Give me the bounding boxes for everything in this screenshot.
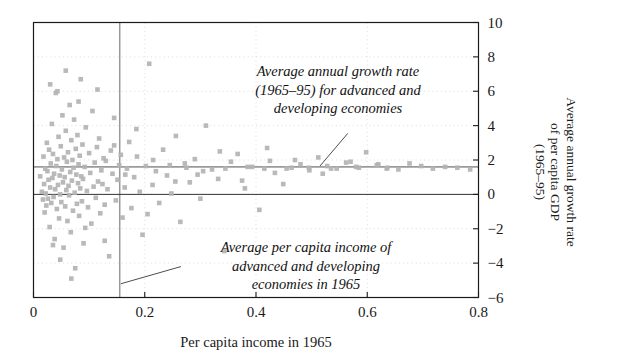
scatter-point	[91, 184, 96, 189]
scatter-point	[134, 127, 139, 132]
scatter-point	[320, 171, 325, 176]
scatter-point	[74, 172, 79, 177]
scatter-point	[125, 166, 130, 171]
scatter-point	[50, 176, 55, 181]
scatter-point	[48, 161, 53, 166]
scatter-point	[123, 172, 128, 177]
scatter-point	[61, 245, 66, 250]
y-axis-tick-label: −4	[488, 255, 504, 272]
scatter-point	[78, 77, 83, 82]
scatter-point	[86, 205, 91, 210]
scatter-point	[334, 166, 339, 171]
scatter-point	[92, 160, 97, 165]
scatter-point	[151, 158, 156, 163]
scatter-point	[193, 157, 198, 162]
scatter-point	[204, 123, 209, 128]
scatter-point	[129, 206, 134, 211]
scatter-point	[112, 143, 117, 148]
scatter-point	[396, 167, 401, 172]
scatter-point	[38, 174, 43, 179]
scatter-point	[97, 136, 102, 141]
scatter-point	[245, 165, 250, 170]
y-axis-tick-label: 2	[488, 152, 496, 169]
scatter-point	[114, 198, 119, 203]
scatter-point	[80, 199, 85, 204]
scatter-point	[82, 165, 87, 170]
scatter-point	[66, 183, 71, 188]
scatter-point	[57, 216, 62, 221]
scatter-point	[62, 155, 67, 160]
y-axis-title: Average annual growth rate of per capita…	[533, 97, 580, 246]
scatter-point	[68, 170, 73, 175]
scatter-point	[60, 167, 65, 172]
scatter-point	[76, 99, 81, 104]
scatter-point	[87, 151, 92, 156]
scatter-point	[81, 241, 86, 246]
scatter-point	[50, 122, 55, 127]
scatter-point	[344, 160, 349, 165]
scatter-point	[293, 158, 298, 163]
scatter-point	[53, 187, 58, 192]
scatter-point	[46, 196, 51, 201]
scatter-point	[47, 225, 52, 230]
scatter-point	[384, 166, 389, 171]
scatter-point	[357, 165, 362, 170]
scatter-point	[70, 158, 75, 163]
scatter-point	[157, 201, 162, 206]
scatter-point	[42, 210, 47, 215]
scatter-point	[135, 154, 140, 159]
scatter-point	[127, 140, 132, 145]
scatter-point	[58, 257, 63, 262]
x-axis-tick-label: 0.6	[358, 304, 377, 321]
scatter-point	[94, 196, 99, 201]
y-axis-tick-label: 0	[488, 186, 496, 203]
scatter-point	[83, 125, 88, 130]
scatter-point	[218, 149, 223, 154]
scatter-point	[431, 166, 436, 171]
scatter-point	[144, 164, 149, 169]
scatter-point	[71, 208, 76, 213]
scatter-point	[75, 133, 80, 138]
scatter-point	[56, 183, 61, 188]
y-axis-title-line-3: (1965–95)	[533, 144, 548, 200]
scatter-point	[52, 237, 57, 242]
y-axis-tick-label: 8	[488, 48, 496, 65]
scatter-point	[70, 178, 75, 183]
scatter-point	[150, 183, 155, 188]
scatter-point	[329, 166, 334, 171]
scatter-point	[63, 204, 68, 209]
scatter-point	[75, 202, 80, 207]
scatter-point	[174, 134, 179, 139]
scatter-point	[167, 163, 172, 168]
scatter-point	[51, 152, 56, 157]
scatter-point	[45, 169, 50, 174]
scatter-point	[229, 159, 234, 164]
scatter-point	[104, 159, 109, 164]
scatter-point	[95, 87, 100, 92]
scatter-point	[73, 266, 78, 271]
scatter-chart-figure: 00.20.40.60.8 1086420−2−4−6 Per capita i…	[0, 0, 620, 364]
scatter-point	[55, 89, 60, 94]
scatter-point	[243, 186, 248, 191]
scatter-point	[45, 141, 50, 146]
scatter-point	[63, 128, 68, 133]
scatter-point	[109, 148, 114, 153]
scatter-point	[54, 164, 59, 169]
scatter-point	[145, 212, 150, 217]
scatter-point	[47, 147, 52, 152]
scatter-point	[72, 190, 77, 195]
scatter-point	[58, 192, 63, 197]
scatter-point	[48, 82, 53, 87]
scatter-point	[284, 166, 289, 171]
scatter-point	[132, 175, 137, 180]
scatter-point	[112, 116, 117, 121]
scatter-point	[58, 144, 63, 149]
scatter-point	[67, 193, 72, 198]
scatter-point	[161, 147, 166, 152]
scatter-point	[235, 152, 240, 157]
scatter-point	[195, 172, 200, 177]
scatter-point	[468, 167, 473, 172]
scatter-point	[85, 189, 90, 194]
scatter-point	[183, 161, 188, 166]
scatter-point	[348, 159, 353, 164]
